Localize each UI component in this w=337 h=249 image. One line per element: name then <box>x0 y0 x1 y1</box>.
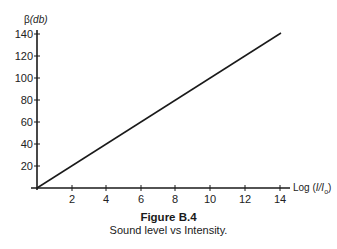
data-line <box>37 33 281 188</box>
y-axis-label-unit: (db) <box>30 14 48 25</box>
y-axis-label: β(db) <box>24 14 48 25</box>
y-tick-label: 40 <box>21 138 33 150</box>
figure-title: Figure B.4 <box>0 211 337 223</box>
y-tick-labels: 20 40 60 80 100 120 140 <box>15 28 33 172</box>
x-tick-labels: 2 4 6 8 10 12 14 <box>69 193 286 205</box>
y-tick-label: 100 <box>15 72 33 84</box>
y-tick-label: 120 <box>15 50 33 62</box>
y-tick-label: 80 <box>21 94 33 106</box>
x-axis-label: Log (I/Io) <box>293 182 331 195</box>
x-tick-label: 6 <box>138 193 144 205</box>
x-tick-label: 14 <box>274 193 286 205</box>
y-tick-label: 20 <box>21 160 33 172</box>
x-tick-label: 2 <box>69 193 75 205</box>
y-tick-label: 140 <box>15 28 33 40</box>
x-tick-label: 10 <box>204 193 216 205</box>
figure-caption: Sound level vs Intensity. <box>0 224 337 236</box>
x-tick-label: 4 <box>103 193 109 205</box>
x-tick-label: 12 <box>239 193 251 205</box>
y-tick-label: 60 <box>21 116 33 128</box>
x-tick-label: 8 <box>172 193 178 205</box>
